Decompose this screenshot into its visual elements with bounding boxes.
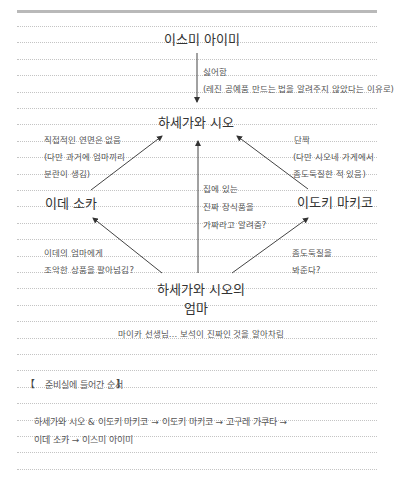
edge-label-right-2: (다만 시오네 가게에서 — [293, 153, 374, 162]
node-hasegawa-shio: 하세가와 시오 — [158, 116, 234, 129]
edge-label-top-2: (레진 공예품 만드는 법을 알려주지 않았다는 이유로) — [203, 85, 394, 94]
edge-label-top-1: 싫어함 — [203, 68, 227, 77]
edge-label-bottom-left-1: 이데의 엄마에게 — [44, 249, 103, 258]
edge-label-bottom-right-2: 봐준다? — [292, 266, 321, 275]
edge-label-bottom-right-1: 좀도둑질을 — [292, 249, 332, 258]
edge-label-bottom-1: 집에 있는 — [203, 185, 238, 194]
note-text: 마이카 선생님… 보석이 진짜인 것을 알아차림 — [118, 330, 284, 339]
relationship-arrows — [0, 0, 397, 479]
edge-label-bottom-left-2: 조악한 상품을 팔아넘김? — [44, 266, 134, 275]
node-shio-mother-line2: 엄마 — [184, 302, 208, 315]
edge-label-left-1: 직접적인 연면은 없음 — [44, 136, 121, 145]
section-bracket-open: 【 — [25, 380, 35, 390]
edge-label-right-3: 좀도둑질한 적 있음) — [293, 170, 366, 179]
edge-label-left-2: (다만 과거에 엄마끼리 — [44, 153, 125, 162]
notebook-page: 이스미 아이미 하세가와 시오 이데 소카 이도키 마키코 하세가와 시오의 엄… — [0, 0, 397, 479]
node-isumi-aimi: 이스미 아이미 — [164, 33, 240, 46]
section-title: 준비실에 들어간 순서 — [45, 381, 123, 390]
order-line-2: 이데 소카 → 이스미 아이미 — [34, 436, 133, 445]
node-idoki-makiko: 이도키 마키코 — [297, 196, 373, 209]
section-bracket-close: 】 — [116, 380, 126, 390]
edge-label-right-1: 단짝 — [294, 136, 310, 145]
edge-label-left-3: 분란이 생김) — [44, 170, 90, 179]
node-ide-soka: 이데 소카 — [45, 197, 97, 210]
edge-label-bottom-2: 진짜 장식품을 — [203, 203, 254, 212]
node-shio-mother-line1: 하세가와 시오의 — [157, 283, 245, 296]
edge-label-bottom-3: 가짜라고 알려줌? — [203, 221, 266, 230]
order-line-1: 하세가와 시오 & 이도키 마키코 → 이도키 마키코 → 고구레 가쿠타 → — [34, 418, 287, 427]
